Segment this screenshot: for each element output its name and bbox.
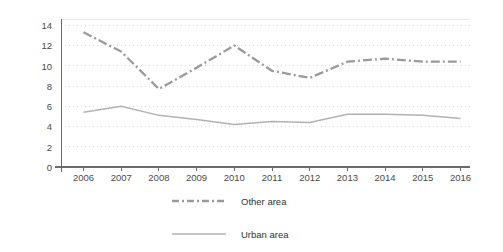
x-tick-label-2014: 2014 [375, 172, 396, 183]
y-tick-label: 12 [41, 40, 52, 51]
x-tick-label-2007: 2007 [111, 172, 132, 183]
chart-canvas: 14 12 10 8 6 4 2 0 2006 2007 20 [0, 0, 503, 252]
x-tick-label-2009: 2009 [186, 172, 207, 183]
x-tick-label-2016: 2016 [450, 172, 471, 183]
x-tick-label-2008: 2008 [148, 172, 169, 183]
line-chart-figure: 14 12 10 8 6 4 2 0 2006 2007 20 [0, 0, 503, 252]
y-tick-label: 8 [47, 81, 52, 92]
x-tick-label-2013: 2013 [337, 172, 358, 183]
y-tick-label: 2 [47, 142, 52, 153]
x-tick-label-2006: 2006 [73, 172, 94, 183]
legend-label-urban-area: Urban area [241, 229, 289, 240]
legend-label-other-area: Other area [241, 196, 287, 207]
y-tick-label: 10 [41, 61, 52, 72]
x-tick-label-2015: 2015 [412, 172, 433, 183]
x-tick-label-2010: 2010 [224, 172, 245, 183]
y-tick-label: 4 [47, 121, 52, 132]
y-tick-label: 0 [47, 162, 52, 173]
x-tick-label-2011: 2011 [262, 172, 282, 183]
x-tick-label-2012: 2012 [299, 172, 320, 183]
y-tick-label: 14 [41, 20, 52, 31]
y-tick-label: 6 [47, 101, 52, 112]
chart-background [0, 0, 503, 252]
